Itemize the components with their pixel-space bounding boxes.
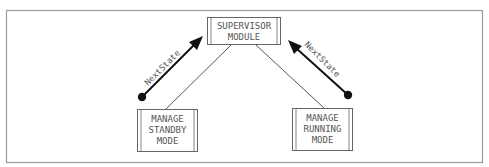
node-label: STANDBY xyxy=(149,125,188,135)
node-label: SUPERVISOR xyxy=(217,21,272,31)
structure-chart-diagram: SUPERVISOR MODULE MANAGE STANDBY MODE MA… xyxy=(0,0,489,167)
node-label: MANAGE xyxy=(306,113,339,123)
node-manage-standby-mode[interactable]: MANAGE STANDBY MODE xyxy=(138,110,198,152)
flow-origin-dot-icon xyxy=(138,93,146,101)
flow-label: NextState xyxy=(142,48,182,88)
flow-nextstate-running: NextState xyxy=(288,39,352,99)
node-label: MODULE xyxy=(228,32,261,42)
flow-nextstate-standby: NextState xyxy=(138,36,203,101)
node-supervisor-module[interactable]: SUPERVISOR MODULE xyxy=(208,18,281,45)
node-label: MODE xyxy=(157,136,179,146)
node-label: RUNNING xyxy=(304,124,342,134)
flow-shaft xyxy=(142,44,195,97)
node-label: MODE xyxy=(312,135,334,145)
flow-origin-dot-icon xyxy=(344,91,352,99)
node-manage-running-mode[interactable]: MANAGE RUNNING MODE xyxy=(293,109,353,151)
node-label: MANAGE xyxy=(151,114,184,124)
